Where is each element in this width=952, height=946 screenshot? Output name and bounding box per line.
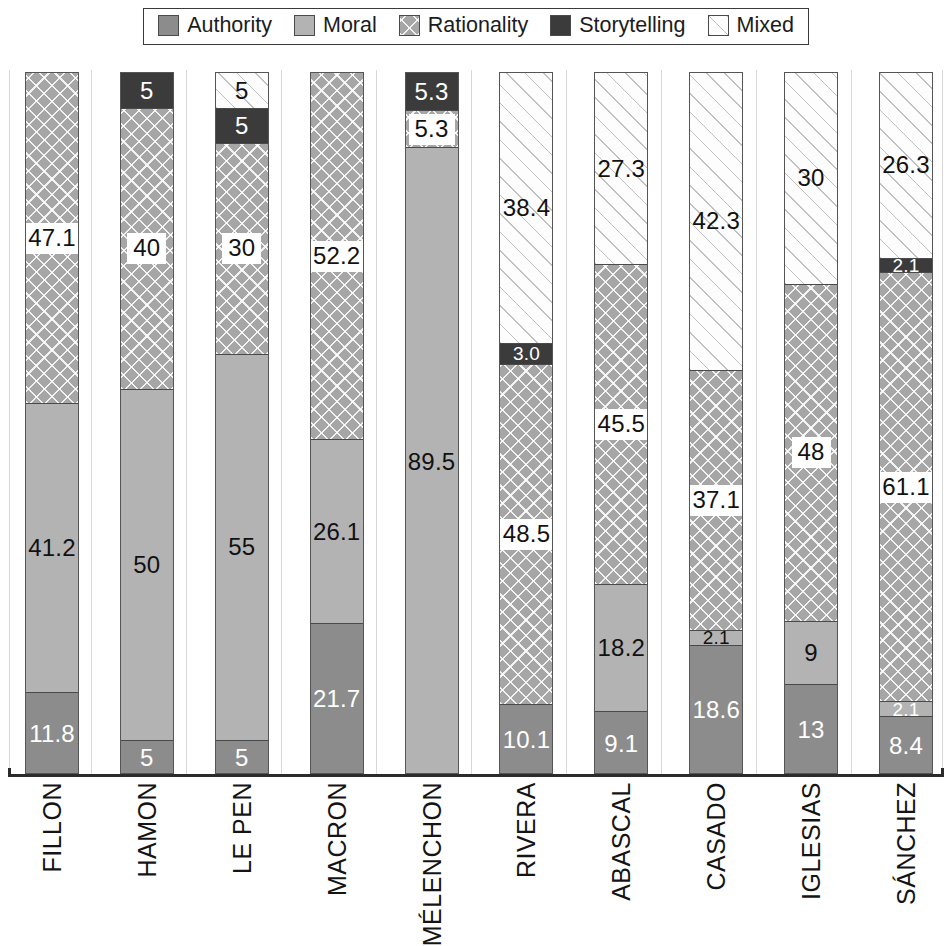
bar-macron[interactable]: 52.226.121.7 [310,72,364,774]
segment-value-label: 48 [792,437,831,468]
segment-value-label: 13 [798,718,825,742]
segment-rationality[interactable]: 48.5 [500,364,552,704]
segment-rationality[interactable]: 40 [121,108,173,389]
segment-rationality[interactable]: 37.1 [690,370,742,630]
gridline [376,70,377,774]
segment-rationality[interactable]: 61.1 [880,272,932,701]
segment-value-label: 89.5 [408,450,456,474]
segment-value-label: 26.3 [882,153,930,177]
x-axis-label-abascal: ABASCAL [607,782,636,901]
segment-moral[interactable]: 26.1 [311,439,363,622]
x-axis-label-rivera: RIVERA [512,782,541,878]
segment-value-label: 42.3 [692,209,740,233]
bar-rivera[interactable]: 38.43.048.510.1 [499,72,553,774]
segment-value-label: 21.7 [313,687,361,711]
segment-rationality[interactable]: 30 [216,143,268,354]
segment-value-label: 9 [804,641,818,665]
bar-iglesias[interactable]: 3048913 [784,72,838,774]
segment-value-label: 18.6 [692,698,740,722]
legend-label-storytelling: Storytelling [579,15,685,37]
x-axis-label-casado: CASADO [702,782,731,891]
segment-mixed[interactable]: 5 [216,73,268,108]
bar-sánchez[interactable]: 26.32.161.12.18.4 [879,72,933,774]
legend-item-rationality[interactable]: Rationality [399,15,528,37]
segment-value-label: 45.5 [594,409,648,440]
segment-moral[interactable]: 2.1 [690,630,742,645]
x-axis-tick-left [8,768,11,776]
gridline [851,70,852,774]
segment-authority[interactable]: 11.8 [26,692,78,774]
segment-value-label: 50 [133,553,160,577]
segment-authority[interactable]: 21.7 [311,623,363,774]
segment-moral[interactable]: 18.2 [595,584,647,712]
bar-mélenchon[interactable]: 5.35.389.5 [405,72,459,774]
x-axis-label-hamon: HAMON [133,782,162,878]
segment-mixed[interactable]: 30 [785,73,837,284]
bar-le-pen[interactable]: 5530555 [215,72,269,774]
segment-value-label: 5.3 [409,114,455,145]
x-axis-label-mélenchon: MÉLENCHON [418,782,447,946]
segment-mixed[interactable]: 38.4 [500,73,552,343]
segment-value-label: 41.2 [28,536,76,560]
segment-storytelling[interactable]: 5.3 [406,73,458,110]
legend-label-moral: Moral [323,15,377,37]
segment-moral[interactable]: 9 [785,621,837,684]
segment-value-label: 5 [140,746,154,770]
chart-plot-area: 47.141.211.8540505553055552.226.121.75.3… [0,70,952,776]
segment-authority[interactable]: 10.1 [500,704,552,774]
x-axis-label-macron: MACRON [323,782,352,896]
segment-rationality[interactable]: 48 [785,284,837,621]
gridline [471,70,472,774]
bar-abascal[interactable]: 27.345.518.29.1 [594,72,648,774]
segment-moral[interactable]: 89.5 [406,147,458,774]
segment-value-label: 5 [140,79,154,103]
legend-item-storytelling[interactable]: Storytelling [550,15,685,37]
segment-authority[interactable]: 5 [121,740,173,774]
legend-item-moral[interactable]: Moral [294,15,377,37]
segment-storytelling[interactable]: 2.1 [880,258,932,273]
segment-value-label: 2.1 [889,256,922,275]
bar-fillon[interactable]: 47.141.211.8 [25,72,79,774]
segment-storytelling[interactable]: 5 [121,73,173,108]
gridline [942,70,943,774]
segment-value-label: 30 [798,166,825,190]
segment-rationality[interactable]: 52.2 [311,73,363,439]
gridline [91,70,92,774]
segment-mixed[interactable]: 26.3 [880,73,932,258]
segment-authority[interactable]: 5 [216,740,268,774]
gridline [566,70,567,774]
segment-rationality[interactable]: 47.1 [26,73,78,403]
chart-legend: AuthorityMoralRationalityStorytellingMix… [143,8,809,45]
segment-value-label: 11.8 [29,722,75,746]
bar-hamon[interactable]: 540505 [120,72,174,774]
segment-authority[interactable]: 13 [785,684,837,774]
segment-authority[interactable]: 8.4 [880,716,932,774]
segment-mixed[interactable]: 42.3 [690,73,742,370]
x-axis-label-fillon: FILLON [38,782,67,873]
segment-value-label: 40 [127,233,166,264]
rationality-swatch [399,15,420,36]
bar-casado[interactable]: 42.337.12.118.6 [689,72,743,774]
segment-value-label: 2.1 [700,628,733,647]
segment-value-label: 37.1 [689,485,743,516]
segment-moral[interactable]: 41.2 [26,403,78,692]
legend-item-mixed[interactable]: Mixed [708,15,794,37]
segment-storytelling[interactable]: 5 [216,108,268,143]
segment-value-label: 61.1 [879,472,933,503]
segment-value-label: 27.3 [598,157,646,181]
moral-swatch [294,15,315,36]
segment-value-label: 30 [222,233,261,264]
authority-swatch [158,15,179,36]
legend-item-authority[interactable]: Authority [158,15,272,37]
segment-authority[interactable]: 18.6 [690,645,742,774]
segment-moral[interactable]: 50 [121,389,173,740]
segment-moral[interactable]: 55 [216,354,268,740]
segment-mixed[interactable]: 27.3 [595,73,647,264]
segment-storytelling[interactable]: 3.0 [500,343,552,364]
segment-rationality[interactable]: 5.3 [406,110,458,147]
segment-value-label: 47.1 [25,223,79,254]
segment-rationality[interactable]: 45.5 [595,264,647,583]
segment-moral[interactable]: 2.1 [880,701,932,716]
x-axis-label-iglesias: IGLESIAS [797,782,826,900]
segment-authority[interactable]: 9.1 [595,711,647,774]
